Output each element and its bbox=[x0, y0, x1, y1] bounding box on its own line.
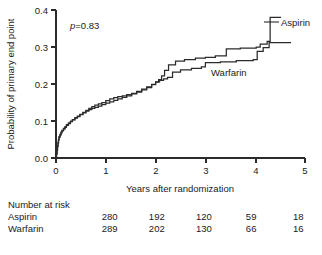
curve-warfarin bbox=[56, 43, 291, 158]
x-axis-tick-labels: 0 1 2 3 4 5 bbox=[53, 165, 307, 176]
y-tick-label-4: 0.4 bbox=[35, 5, 48, 16]
x-tick-label-3: 3 bbox=[203, 165, 208, 176]
risk-row-label-aspirin: Aspirin bbox=[0, 211, 86, 223]
risk-table-body: Aspirin 280 192 120 59 18 Warfarin 289 2… bbox=[0, 211, 322, 235]
y-tick-label-0: 0.0 bbox=[35, 153, 48, 164]
risk-warfarin-y4: 16 bbox=[275, 223, 322, 235]
risk-table-title: Number at risk bbox=[0, 199, 322, 211]
y-axis-tick-labels: 0.4 0.3 0.2 0.1 0.0 bbox=[35, 5, 48, 164]
table-row: Warfarin 289 202 130 66 16 bbox=[0, 223, 322, 235]
y-tick-label-3: 0.3 bbox=[35, 42, 48, 53]
p-value-text: p=0.83 bbox=[69, 20, 99, 31]
y-tick-label-2: 0.2 bbox=[35, 79, 48, 90]
risk-aspirin-y3: 59 bbox=[228, 211, 275, 223]
curve-aspirin bbox=[56, 17, 281, 158]
risk-warfarin-y3: 66 bbox=[228, 223, 275, 235]
risk-warfarin-y2: 130 bbox=[180, 223, 227, 235]
p-value-annotation: p=0.83 bbox=[69, 20, 99, 31]
risk-row-label-warfarin: Warfarin bbox=[0, 223, 86, 235]
x-tick-label-4: 4 bbox=[253, 165, 258, 176]
series-label-aspirin: Aspirin bbox=[281, 17, 310, 28]
risk-warfarin-y1: 202 bbox=[133, 223, 180, 235]
x-axis-ticks bbox=[56, 158, 305, 163]
x-axis-group: 0 1 2 3 4 5 Years after randomization bbox=[53, 158, 307, 194]
x-axis-title: Years after randomization bbox=[126, 183, 234, 194]
risk-aspirin-y2: 120 bbox=[180, 211, 227, 223]
number-at-risk-table: Number at risk Aspirin 280 192 120 59 18… bbox=[0, 199, 322, 235]
risk-aspirin-y1: 192 bbox=[133, 211, 180, 223]
y-axis-group: 0.4 0.3 0.2 0.1 0.0 Probability of prima… bbox=[5, 5, 56, 164]
y-tick-label-1: 0.1 bbox=[35, 116, 48, 127]
table-row: Aspirin 280 192 120 59 18 bbox=[0, 211, 322, 223]
x-tick-label-1: 1 bbox=[103, 165, 108, 176]
x-tick-label-5: 5 bbox=[302, 165, 307, 176]
risk-warfarin-y0: 289 bbox=[86, 223, 133, 235]
curves-group bbox=[56, 17, 291, 158]
series-label-warfarin: Warfarin bbox=[211, 67, 247, 78]
x-tick-label-2: 2 bbox=[153, 165, 158, 176]
kaplan-meier-figure: 0.4 0.3 0.2 0.1 0.0 Probability of prima… bbox=[0, 0, 322, 255]
risk-aspirin-y4: 18 bbox=[275, 211, 322, 223]
risk-aspirin-y0: 280 bbox=[86, 211, 133, 223]
p-value-number: 0.83 bbox=[81, 20, 100, 31]
risk-table-grid: Aspirin 280 192 120 59 18 Warfarin 289 2… bbox=[0, 211, 322, 235]
y-axis-ticks bbox=[51, 10, 56, 158]
x-tick-label-0: 0 bbox=[53, 165, 58, 176]
y-axis-title: Probability of primary end point bbox=[5, 18, 16, 149]
